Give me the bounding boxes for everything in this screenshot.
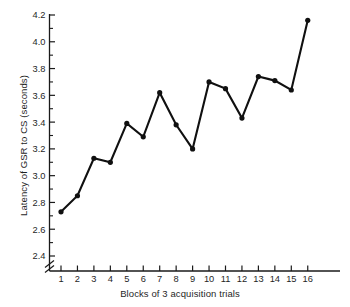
x-tick-label: 3	[91, 274, 96, 284]
data-point	[58, 209, 63, 214]
data-series	[58, 18, 310, 215]
data-point	[157, 90, 162, 95]
data-point	[75, 193, 80, 198]
x-tick-label: 6	[141, 274, 146, 284]
data-point	[239, 115, 244, 120]
y-tick-label: 3.0	[33, 171, 46, 181]
x-tick-label: 16	[303, 274, 313, 284]
axes	[45, 14, 340, 273]
data-point	[91, 156, 96, 161]
x-tick-label: 15	[286, 274, 296, 284]
y-tick-label: 4.0	[33, 37, 46, 47]
data-point	[256, 74, 261, 79]
data-point	[174, 122, 179, 127]
data-point	[289, 87, 294, 92]
x-tick-label: 5	[124, 274, 129, 284]
x-tick-label: 10	[204, 274, 214, 284]
y-tick-label: 3.4	[33, 118, 46, 128]
x-tick-label: 12	[237, 274, 247, 284]
data-point	[272, 78, 277, 83]
x-tick-label: 14	[270, 274, 280, 284]
x-tick-label: 4	[108, 274, 113, 284]
y-tick-label: 3.2	[33, 144, 46, 154]
y-tick-label: 2.8	[33, 198, 46, 208]
y-tick-label: 4.2	[33, 10, 46, 20]
x-tick-label: 7	[157, 274, 162, 284]
series-markers	[58, 18, 310, 215]
data-point	[124, 121, 129, 126]
series-line	[61, 20, 308, 211]
x-tick-label: 11	[221, 274, 231, 284]
y-tick-label: 3.8	[33, 64, 46, 74]
y-tick-label: 3.6	[33, 91, 46, 101]
x-tick-label: 1	[58, 274, 63, 284]
data-point	[190, 146, 195, 151]
data-point	[108, 160, 113, 165]
chart-figure: Latency of GSR to CS (seconds) Blocks of…	[0, 0, 350, 307]
y-tick-label: 2.6	[33, 225, 46, 235]
data-point	[223, 86, 228, 91]
x-axis-ticks: 12345678910111213141516	[58, 266, 313, 284]
y-tick-label: 2.4	[33, 251, 46, 261]
x-tick-label: 2	[75, 274, 80, 284]
x-tick-label: 9	[190, 274, 195, 284]
data-point	[141, 134, 146, 139]
data-point	[305, 18, 310, 23]
y-axis-ticks: 2.42.62.83.03.23.43.63.84.04.2	[33, 10, 55, 261]
x-tick-label: 8	[174, 274, 179, 284]
x-tick-label: 13	[253, 274, 263, 284]
data-point	[206, 79, 211, 84]
line-chart-plot: 2.42.62.83.03.23.43.63.84.04.2 123456789…	[0, 0, 350, 307]
